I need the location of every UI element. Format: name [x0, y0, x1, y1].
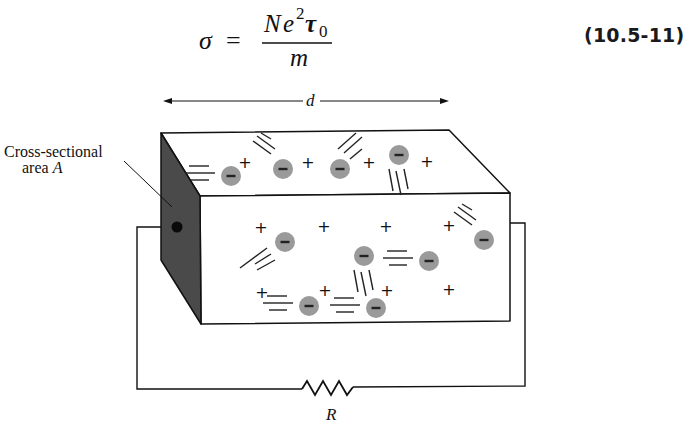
resistor-icon: [302, 381, 353, 395]
minus-sign-icon: [395, 154, 404, 156]
positive-ion-icon: +: [301, 153, 314, 172]
minus-sign-icon: [372, 307, 381, 309]
minus-sign-icon: [279, 168, 288, 170]
equation-number: (10.5-11): [584, 24, 684, 46]
numerator-e: e: [283, 10, 294, 37]
denominator-m: m: [290, 44, 308, 71]
cross-section-callout: Cross-sectional area A: [4, 144, 103, 176]
equals-sign: =: [226, 26, 241, 55]
callout-line-2: area A: [4, 160, 103, 176]
numerator-tau: τ: [305, 10, 317, 37]
positive-ion-icon: +: [442, 216, 455, 235]
positive-ion-icon: +: [255, 283, 268, 302]
numerator-N: N: [263, 10, 282, 37]
positive-ion-icon: +: [317, 217, 330, 236]
length-label-d: d: [306, 91, 315, 110]
exponent-2: 2: [296, 4, 305, 23]
minus-sign-icon: [281, 241, 290, 243]
contact-terminal: [172, 222, 183, 233]
conductor-block: [161, 130, 510, 324]
diagram-canvas: σ = N e 2 τ 0 m d R: [0, 0, 687, 430]
minus-sign-icon: [360, 255, 369, 257]
positive-ion-icon: +: [379, 217, 392, 236]
positive-ion-icon: +: [380, 281, 393, 300]
positive-ion-icon: +: [420, 152, 433, 171]
figure-page: σ = N e 2 τ 0 m d R: [0, 0, 687, 430]
conductivity-equation: σ = N e 2 τ 0 m: [199, 4, 332, 71]
callout-area-var: A: [53, 159, 63, 176]
positive-ion-icon: +: [362, 153, 375, 172]
positive-ion-icon: +: [442, 280, 455, 299]
resistor-label-R: R: [325, 405, 337, 424]
minus-sign-icon: [227, 175, 236, 177]
positive-ion-icon: +: [318, 281, 331, 300]
positive-ion-icon: +: [254, 218, 267, 237]
arrow-right-head-icon: [440, 98, 449, 104]
minus-sign-icon: [336, 168, 345, 170]
positive-ion-icon: +: [238, 153, 251, 172]
sigma-symbol: σ: [199, 26, 213, 55]
minus-sign-icon: [425, 260, 434, 262]
minus-sign-icon: [480, 239, 489, 241]
callout-line-1: Cross-sectional: [4, 144, 103, 160]
callout-area-prefix: area: [22, 159, 53, 176]
arrow-left-head-icon: [163, 98, 172, 104]
subscript-0: 0: [319, 22, 328, 41]
minus-sign-icon: [305, 305, 314, 307]
